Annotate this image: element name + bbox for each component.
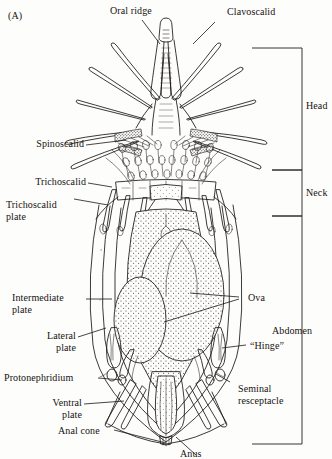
label-ventral-plate: Ventral plate: [0, 397, 82, 420]
leader-oral-ridge: [142, 20, 160, 44]
bracket-head: [252, 48, 302, 170]
bracket-label-neck: Neck: [306, 187, 328, 199]
scalid-rows-group: [106, 136, 226, 184]
label-clavoscalid: Clavoscalid: [227, 6, 275, 18]
clavoscalid-group: [65, 43, 267, 169]
leader-trichoscalid-plate: [74, 199, 108, 205]
label-protonephridium: Protonephridium: [4, 372, 73, 384]
label-oral-ridge: Oral ridge: [110, 5, 152, 17]
oral-cone-group: [136, 18, 196, 135]
bracket-label-abdomen: Abdomen: [272, 325, 312, 337]
bracket-neck: [272, 170, 302, 216]
label-lateral-plate: Lateral plate: [0, 330, 76, 353]
label-seminal-resceptacle: Seminal resceptacle: [238, 383, 284, 406]
label-spinoscalid: Spinoscalid: [0, 138, 84, 150]
leader-trichoscalid: [88, 183, 112, 187]
label-trichoscalid: Trichoscalid: [0, 176, 86, 188]
leader-ventral-plate: [84, 401, 124, 404]
anal-cone-group: [105, 372, 227, 446]
label-trichoscalid-plate: Trichoscalid plate: [6, 199, 57, 222]
label-intermediate-plate: Intermediate plate: [12, 292, 64, 315]
bracket-label-head: Head: [306, 100, 328, 112]
panel-label: (A): [8, 10, 22, 22]
label-anal-cone: Anal cone: [58, 425, 100, 437]
anatomical-figure: (A) Oral ridge Clavoscalid Spinoscalid T…: [0, 0, 332, 459]
leader-spinoscalid: [86, 140, 126, 145]
label-anus: Anus: [180, 448, 202, 459]
label-ova: Ova: [248, 292, 265, 304]
label-hinge: “Hinge”: [250, 340, 284, 352]
trichoscalid-plate-group: [116, 180, 216, 201]
